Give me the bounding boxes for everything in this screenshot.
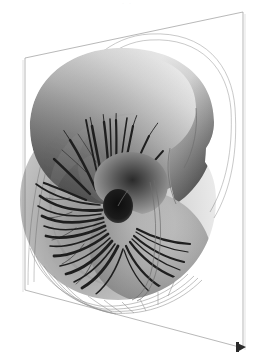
nautilus-render — [0, 0, 255, 363]
corner-marker — [236, 342, 246, 352]
figure-canvas: · · — [0, 0, 255, 363]
